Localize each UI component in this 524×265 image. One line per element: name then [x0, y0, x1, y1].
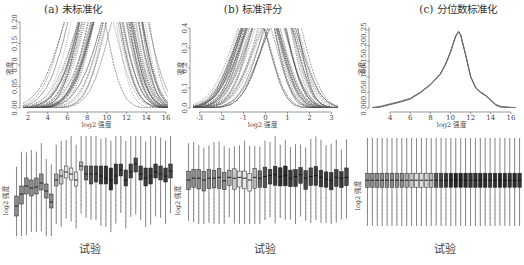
x-tick-label: 12 [122, 114, 131, 122]
x-tick-label: 3 [329, 114, 333, 122]
box [104, 166, 108, 184]
box [49, 194, 53, 208]
panel-c-box-ylabel: log2 强度 [353, 180, 362, 210]
x-tick-label: 6 [65, 114, 70, 122]
box [304, 171, 308, 190]
box [345, 168, 349, 186]
boxplot-group [15, 136, 173, 239]
panel-b-box-ylabel: log2 强度 [173, 185, 182, 215]
x-tick-label: 1 [285, 114, 289, 122]
density-curves [23, 18, 168, 108]
box [164, 168, 168, 182]
y-tick-label: 0.1 [181, 82, 189, 93]
y-tick-label: 0.05 [360, 85, 368, 101]
x-tick-label: 2 [307, 114, 311, 122]
y-tick-label: 0.15 [360, 53, 368, 69]
y-tick-label: 0.10 [11, 57, 19, 73]
figure: (a) 未标准化 (b) 标准评分 (c) 分位数标准化 密度 密度 密度 lo… [0, 0, 524, 265]
box [248, 174, 252, 191]
box [329, 173, 333, 190]
y-tick-label: 0.20 [360, 38, 368, 54]
y-tick-label: 0.15 [11, 36, 19, 52]
boxplot-group [366, 138, 522, 226]
box [217, 169, 221, 189]
box [212, 170, 216, 188]
box [59, 170, 63, 184]
y-tick-label: 0.20 [11, 14, 19, 30]
x-tick-label: 10 [446, 114, 455, 122]
boxplot-group [187, 136, 349, 224]
y-tick-label: 0.05 [11, 79, 19, 95]
x-tick-label: 14 [486, 114, 495, 122]
x-tick-label: -2 [218, 114, 225, 122]
box [20, 186, 24, 204]
box [139, 166, 143, 180]
x-tick-label: 4 [388, 114, 393, 122]
box [84, 166, 88, 180]
y-tick-label: 0.00 [11, 100, 19, 116]
x-tick-label: 14 [142, 114, 151, 122]
box [40, 174, 44, 190]
box [253, 168, 257, 188]
box [144, 168, 148, 186]
box [334, 170, 338, 187]
box [124, 170, 128, 186]
x-tick-label: 16 [162, 114, 171, 122]
y-tick-label: 0.3 [181, 42, 189, 53]
box [268, 169, 272, 184]
x-tick-label: 6 [408, 114, 413, 122]
x-tick-label: 4 [45, 114, 50, 122]
panel-a-title: (a) 未标准化 [44, 3, 103, 15]
y-tick-label: 0.2 [181, 62, 189, 73]
box [202, 171, 206, 191]
density-curves [193, 24, 338, 108]
x-tick-label: 0 [263, 114, 267, 122]
x-tick-label: 8 [428, 114, 432, 122]
box [99, 166, 103, 184]
box [154, 164, 158, 178]
panel-b-title: (b) 标准评分 [224, 3, 283, 15]
box [258, 171, 262, 188]
panel-b-box-xlabel: 试验 [254, 242, 276, 256]
x-tick-label: 10 [102, 114, 111, 122]
box [35, 178, 39, 194]
panel-c-title: (c) 分位数标准化 [419, 3, 497, 15]
box [109, 168, 113, 190]
box [273, 166, 277, 185]
box [299, 167, 303, 183]
box [233, 169, 237, 189]
panel-c-box-xlabel: 试验 [434, 242, 456, 256]
box [134, 158, 138, 172]
box [129, 164, 133, 178]
density-curves [372, 31, 516, 108]
box [243, 171, 247, 189]
box [197, 170, 201, 189]
box [89, 166, 93, 184]
y-tick-label: 0.10 [360, 69, 368, 85]
panel-a-box-xlabel: 试验 [79, 242, 101, 256]
box [238, 171, 242, 187]
x-tick-label: 2 [26, 114, 30, 122]
x-tick-label: 12 [466, 114, 475, 122]
box [159, 166, 163, 180]
box [319, 170, 323, 187]
box [294, 169, 298, 186]
chart-canvas: (a) 未标准化 (b) 标准评分 (c) 分位数标准化 密度 密度 密度 lo… [0, 0, 524, 265]
box [114, 164, 118, 184]
box [207, 169, 211, 188]
box [74, 172, 78, 186]
x-tick-label: 16 [507, 114, 516, 122]
y-tick-label: 0.25 [360, 22, 368, 38]
x-tick-label: -3 [196, 114, 203, 122]
y-tick-label: 0.4 [181, 22, 189, 34]
box [340, 172, 344, 188]
y-tick-label: 0.00 [360, 100, 368, 116]
panel-a-box-ylabel: log2 强度 [1, 185, 10, 215]
box [263, 167, 267, 188]
x-tick-label: 8 [85, 114, 89, 122]
y-tick-label: 0.0 [181, 102, 189, 113]
x-tick-label: -1 [240, 114, 247, 122]
